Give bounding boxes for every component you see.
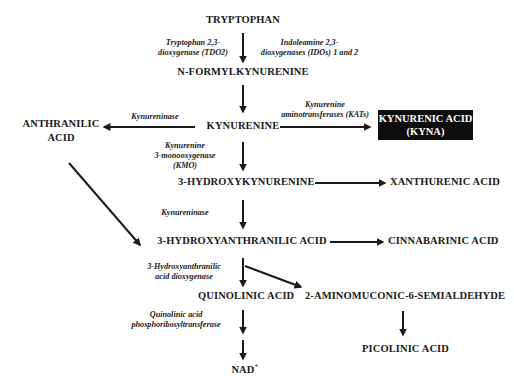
node-kynurenic-acid-line1: KYNURENIC ACID	[378, 112, 473, 125]
enzyme-ido: Indoleamine 2,3- dioxygenases (IDOs) 1 a…	[252, 38, 367, 58]
node-quinolinic-acid: QUINOLINIC ACID	[198, 290, 294, 301]
node-anthranilic-acid-line2: ACID	[14, 131, 108, 145]
enzyme-haao: 3-Hydroxyanthranilic acid dioxygenase	[144, 262, 224, 282]
node-nad: NAD+	[225, 362, 265, 375]
enzyme-kats: Kynurenine aminotransferases (KATs)	[270, 100, 380, 120]
enzyme-tdo2-line1: Tryptophan 2,3-	[148, 38, 238, 48]
enzyme-kmo-line1: Kynurenine	[150, 141, 220, 151]
node-kynurenic-acid-highlight: KYNURENIC ACID (KYNA)	[378, 110, 473, 140]
arrow-aa-to-3haa	[69, 163, 140, 245]
node-aminomuconic-semialdehyde: 2-AMINOMUCONIC-6-SEMIALDEHYDE	[305, 290, 501, 301]
kynurenine-pathway-diagram: TRYPTOPHAN N-FORMYLKYNURENINE KYNURENINE…	[0, 0, 514, 390]
node-n-formylkynurenine: N-FORMYLKYNURENINE	[173, 66, 313, 77]
enzyme-kats-line1: Kynurenine	[270, 100, 380, 110]
node-picolinic-acid: PICOLINIC ACID	[358, 343, 453, 354]
enzyme-tdo2: Tryptophan 2,3- dioxygenase (TDO2)	[148, 38, 238, 58]
node-tryptophan: TRYPTOPHAN	[203, 14, 283, 25]
node-nad-text: NAD	[231, 364, 254, 375]
enzyme-qprt-line1: Quinolinic acid	[128, 310, 224, 320]
enzyme-ido-line1: Indoleamine 2,3-	[252, 38, 367, 48]
enzyme-qprt: Quinolinic acid phosphoribosyltransferas…	[128, 310, 224, 330]
node-kynurenic-acid-line2: (KYNA)	[378, 125, 473, 138]
arrows-layer	[0, 0, 514, 390]
arrow-3haa-to-acms	[245, 266, 301, 287]
enzyme-kmo-line2: 3-monooxygenase	[150, 151, 220, 161]
enzyme-kats-line2: aminotransferases (KATs)	[270, 110, 380, 120]
enzyme-ido-line2: dioxygenases (IDOs) 1 and 2	[252, 48, 367, 58]
node-xanthurenic-acid: XANTHURENIC ACID	[390, 176, 500, 187]
node-3-hydroxyanthranilic-acid: 3-HYDROXYANTHRANILIC ACID	[157, 235, 327, 246]
enzyme-kynureninase-2: Kynureninase	[155, 208, 215, 218]
node-nad-superscript: +	[254, 362, 258, 370]
enzyme-qprt-line2: phosphoribosyltransferase	[128, 320, 224, 330]
enzyme-tdo2-line2: dioxygenase (TDO2)	[148, 48, 238, 58]
node-3-hydroxykynurenine: 3-HYDROXYKYNURENINE	[178, 176, 308, 187]
enzyme-kmo-line3: (KMO)	[150, 161, 220, 171]
node-anthranilic-acid: ANTHRANILIC ACID	[14, 117, 108, 145]
enzyme-kynureninase-1: Kynureninase	[120, 112, 190, 122]
enzyme-haao-line1: 3-Hydroxyanthranilic	[144, 262, 224, 272]
node-kynurenine: KYNURENINE	[203, 120, 283, 131]
enzyme-haao-line2: acid dioxygenase	[144, 272, 224, 282]
node-cinnabarinic-acid: CINNABARINIC ACID	[388, 235, 508, 246]
enzyme-kmo: Kynurenine 3-monooxygenase (KMO)	[150, 141, 220, 171]
node-anthranilic-acid-line1: ANTHRANILIC	[14, 117, 108, 131]
